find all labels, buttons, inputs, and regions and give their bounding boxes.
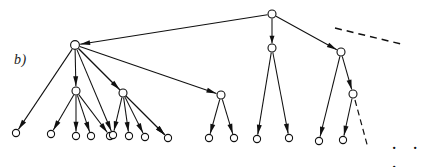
tree-node-h1 bbox=[71, 41, 80, 50]
tree-edge bbox=[344, 99, 352, 136]
edge-line bbox=[320, 56, 340, 136]
tree-node-n4 bbox=[349, 90, 357, 98]
tree-node-L14 bbox=[339, 136, 346, 143]
tree-node-L6 bbox=[125, 132, 132, 139]
tree-edge bbox=[273, 53, 289, 134]
edge-layer bbox=[18, 15, 352, 137]
tree-node-L10 bbox=[230, 134, 237, 141]
tree-edge bbox=[77, 50, 111, 131]
tree-edge bbox=[257, 53, 271, 135]
edge-line bbox=[258, 53, 272, 135]
tree-node-L3 bbox=[87, 132, 94, 139]
arrow-head-icon bbox=[99, 123, 107, 132]
arrow-head-icon bbox=[347, 79, 352, 89]
arrow-head-icon bbox=[84, 122, 90, 132]
tree-node-L2 bbox=[72, 132, 79, 139]
tree-edge bbox=[124, 98, 130, 132]
tree-node-L11 bbox=[253, 135, 260, 142]
arrow-head-icon bbox=[210, 124, 215, 134]
tree-node-n1 bbox=[72, 87, 80, 95]
arrow-head-icon bbox=[327, 43, 337, 50]
tree-node-L0 bbox=[12, 129, 19, 136]
arrow-head-icon bbox=[206, 88, 216, 94]
edge-line bbox=[276, 16, 337, 49]
tree-edge bbox=[276, 16, 337, 49]
figure-panel-b: b) · · · bbox=[0, 0, 436, 167]
edge-line bbox=[80, 15, 267, 44]
ellipsis-continuation: · · · bbox=[391, 138, 436, 167]
tree-edge bbox=[53, 95, 73, 130]
tree-edge bbox=[126, 96, 165, 135]
panel-label: b) bbox=[14, 52, 27, 68]
arrow-head-icon bbox=[227, 124, 232, 134]
edge-line bbox=[77, 50, 111, 131]
edge-line bbox=[273, 53, 288, 134]
tree-node-n2 bbox=[119, 89, 127, 97]
tree-node-L1 bbox=[47, 130, 54, 137]
tree-edge bbox=[74, 96, 79, 132]
tree-node-L7 bbox=[141, 133, 148, 140]
tree-node-h3 bbox=[337, 48, 345, 56]
tree-node-L9 bbox=[205, 134, 212, 141]
tree-edge bbox=[210, 99, 220, 133]
arrow-head-icon bbox=[270, 36, 275, 43]
tree-edge bbox=[114, 97, 122, 130]
tree-edge bbox=[320, 56, 340, 136]
dashed-subtree-continuation bbox=[355, 100, 368, 148]
tree-node-L12 bbox=[285, 134, 292, 141]
tree-node-root bbox=[268, 10, 276, 18]
node-layer bbox=[12, 10, 357, 145]
arrow-head-icon bbox=[136, 123, 143, 133]
tree-node-n3 bbox=[217, 91, 225, 99]
arrow-head-icon bbox=[53, 120, 60, 130]
tree-node-L8 bbox=[164, 134, 171, 141]
dashed-root-continuation bbox=[335, 28, 401, 44]
arrow-head-icon bbox=[18, 120, 26, 130]
tree-node-h2 bbox=[268, 44, 276, 52]
tree-diagram bbox=[0, 0, 436, 167]
arrow-head-icon bbox=[344, 125, 349, 135]
arrow-head-icon bbox=[257, 124, 262, 134]
arrow-head-icon bbox=[284, 123, 289, 133]
arrow-head-icon bbox=[73, 76, 78, 86]
tree-edge bbox=[80, 15, 267, 45]
arrow-head-icon bbox=[114, 121, 119, 131]
tree-edge bbox=[73, 50, 78, 86]
arrow-head-icon bbox=[125, 122, 130, 132]
arrow-head-icon bbox=[320, 126, 325, 136]
tree-edge bbox=[342, 56, 351, 89]
tree-edge bbox=[270, 19, 275, 44]
tree-node-L13 bbox=[315, 137, 322, 144]
tree-edge bbox=[222, 99, 232, 133]
tree-node-L5 bbox=[109, 131, 116, 138]
arrow-head-icon bbox=[74, 122, 79, 132]
